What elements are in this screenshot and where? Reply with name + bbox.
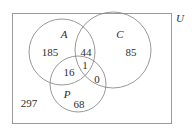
region-count-p-only: 68 <box>74 98 86 110</box>
set-a-label: A <box>60 28 68 40</box>
universe-label: U <box>176 12 185 24</box>
region-count-outside: 297 <box>21 97 38 109</box>
region-count-a-and-c-and-p: 1 <box>82 59 88 71</box>
venn-canvas: U A C P 185 85 68 44 16 0 1 297 <box>0 0 192 132</box>
venn-diagram: U A C P 185 85 68 44 16 0 1 297 <box>0 0 192 132</box>
region-count-c-only: 85 <box>126 46 138 58</box>
region-count-a-only: 185 <box>42 46 59 58</box>
region-count-c-and-p: 0 <box>94 73 100 85</box>
region-count-a-and-p: 16 <box>64 66 76 78</box>
set-c-label: C <box>116 28 124 40</box>
region-count-a-and-c: 44 <box>81 46 93 58</box>
set-p-label: P <box>63 88 71 100</box>
